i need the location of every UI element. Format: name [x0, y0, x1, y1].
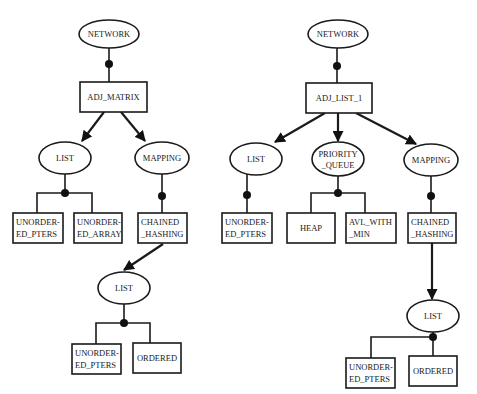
node-label: LIST [247, 154, 266, 164]
design-tree-diagram: NETWORK ADJ_MATRIX LIST MAPPING UNORDER-… [0, 0, 477, 394]
branch-sublist-unordered [371, 337, 433, 358]
arrow-adjlist-list [275, 113, 325, 142]
node-adj-matrix: ADJ_MATRIX [80, 82, 147, 112]
junction-dot [334, 189, 342, 197]
node-sub-unordered-pters: UNORDER- ED_PTERS [72, 344, 121, 374]
node-label: ED_PTERS [349, 374, 390, 384]
node-network: NETWORK [308, 20, 368, 48]
arrow-adjmatrix-mapping [121, 112, 145, 141]
node-label: MAPPING [143, 153, 181, 163]
node-chained-hashing: CHAINED _HASHING [138, 213, 187, 243]
node-priority-queue: PRIORITY _QUEUE [312, 142, 364, 176]
node-sub-ordered: ORDERED [409, 356, 457, 386]
node-unordered-pters: UNORDER- ED_PTERS [222, 213, 272, 243]
node-label: LIST [115, 283, 134, 293]
arrow-chained-list [124, 244, 163, 270]
node-label: ED_PTERS [16, 229, 57, 239]
node-label: NETWORK [88, 29, 131, 39]
node-label: UNORDER- [225, 217, 269, 227]
node-mapping: MAPPING [135, 142, 189, 174]
node-label: ED_PTERS [75, 360, 116, 370]
node-avl-with-min: AVL_WITH _MIN [346, 213, 396, 243]
node-label: ED_ARRAY [77, 229, 122, 239]
node-label: LIST [56, 153, 75, 163]
node-label: _MIN [348, 229, 370, 239]
node-adj-list-1: ADJ_LIST_1 [306, 83, 372, 113]
node-label: MAPPING [412, 155, 450, 165]
node-label: UNORDER- [77, 217, 121, 227]
node-label: UNORDER- [75, 348, 119, 358]
node-heap: HEAP [287, 213, 335, 243]
node-label: AVL_WITH [349, 217, 392, 227]
node-list: LIST [230, 143, 282, 175]
node-sub-list: LIST [98, 272, 150, 304]
node-label: HEAP [300, 223, 322, 233]
node-label: CHAINED [141, 217, 179, 227]
node-label: LIST [424, 311, 443, 321]
node-label: ORDERED [413, 366, 453, 376]
node-sub-list: LIST [407, 300, 459, 332]
node-mapping: MAPPING [404, 144, 458, 176]
node-label: ADJ_MATRIX [87, 92, 139, 102]
node-unordered-array: UNORDER- ED_ARRAY [74, 213, 122, 243]
node-label: NETWORK [317, 29, 360, 39]
node-label: ED_PTERS [225, 229, 266, 239]
junction-dot [105, 60, 113, 68]
left-tree: NETWORK ADJ_MATRIX LIST MAPPING UNORDER-… [13, 20, 189, 374]
arrow-adjmatrix-list [82, 112, 104, 141]
junction-dot [333, 62, 341, 70]
junction-dot [61, 189, 69, 197]
junction-dot [120, 319, 128, 327]
node-sub-unordered-pters: UNORDER- ED_PTERS [346, 358, 395, 388]
node-label: UNORDER- [349, 362, 393, 372]
node-chained-hashing: CHAINED _HASHING [408, 213, 456, 243]
node-label: _QUEUE [320, 160, 354, 170]
node-unordered-pters: UNORDER- ED_PTERS [13, 213, 63, 243]
junction-dot [429, 333, 437, 341]
junction-dot [243, 191, 251, 199]
junction-dot [427, 192, 435, 200]
junction-dot [158, 192, 166, 200]
node-network: NETWORK [79, 20, 139, 48]
node-label: PRIORITY [318, 149, 357, 159]
node-sub-ordered: ORDERED [133, 343, 181, 373]
node-label: UNORDER- [16, 217, 60, 227]
node-label: ADJ_LIST_1 [316, 93, 362, 103]
arrow-adjlist-mapping [356, 113, 416, 144]
right-tree: NETWORK ADJ_LIST_1 LIST PRIORITY _QUEUE … [222, 20, 459, 388]
node-label: _HASHING [140, 229, 184, 239]
node-label: _HASHING [410, 229, 454, 239]
node-label: CHAINED [411, 217, 449, 227]
node-label: ORDERED [137, 353, 177, 363]
node-list: LIST [39, 142, 91, 174]
